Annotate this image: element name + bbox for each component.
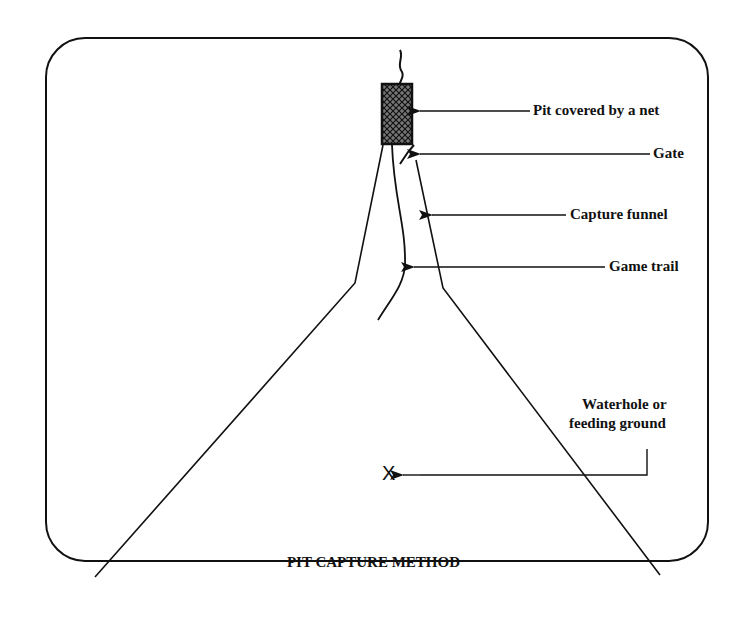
gate-label: Gate	[653, 145, 684, 162]
gate-icon	[400, 145, 414, 164]
waterhole-label-line2: feeding ground	[569, 415, 666, 432]
diagram-title: PIT CAPTURE METHOD	[0, 554, 747, 571]
game-trail-label: Game trail	[609, 258, 679, 275]
net-stake	[400, 50, 403, 86]
game-trail	[378, 145, 405, 320]
capture-funnel-label: Capture funnel	[570, 206, 668, 223]
waterhole-label-line1: Waterhole or	[582, 396, 667, 413]
waterhole-leader	[420, 449, 647, 475]
pit-capture-drawing	[0, 0, 747, 622]
funnel-left-wall	[95, 145, 383, 577]
pit-label: Pit covered by a net	[533, 102, 659, 119]
waterhole-marker: X	[382, 465, 395, 482]
pit-icon	[382, 84, 412, 144]
